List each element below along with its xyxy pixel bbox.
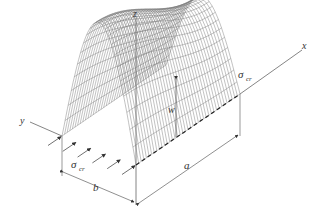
deflection-label: w [168, 104, 175, 115]
x-axis [240, 50, 302, 94]
length-label: a [184, 159, 190, 171]
x-axis-label: x [301, 40, 307, 51]
sigma-subscript-left: cr [79, 165, 85, 173]
compression-arrows [48, 137, 135, 175]
sigma-symbol-right: σ [238, 68, 244, 80]
buckled-surface-mesh [62, 0, 240, 165]
sigma-subscript-right: cr [246, 75, 252, 83]
y-axis [30, 122, 62, 136]
stress-label-right: σ cr [238, 68, 252, 83]
width-label: b [93, 181, 99, 193]
sigma-symbol-left: σ [71, 158, 77, 170]
y-axis-label: y [19, 115, 25, 126]
z-axis-label: z [132, 8, 137, 19]
stress-label-left: σ cr [71, 158, 85, 173]
dimension-b [63, 172, 134, 202]
buckled-plate-diagram: z x y w a b σ cr σ cr [0, 0, 327, 212]
